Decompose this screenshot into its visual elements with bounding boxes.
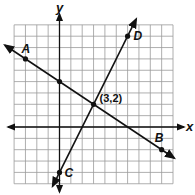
y-axis-label: y <box>55 0 64 15</box>
graph-svg: ABCD(3,2) x y <box>0 0 195 195</box>
plotted-points: ABCD(3,2) <box>20 29 164 180</box>
point-label: (3,2) <box>100 92 123 104</box>
point-label: A <box>20 42 30 56</box>
x-axis-label: x <box>185 119 194 134</box>
point-A <box>23 56 28 61</box>
coordinate-plane: ABCD(3,2) x y <box>0 0 195 195</box>
line-ab <box>5 45 174 158</box>
point-B <box>159 147 164 152</box>
point-label: C <box>65 166 74 180</box>
point-D <box>125 34 130 39</box>
point-y-intercept <box>57 79 62 84</box>
point-C <box>57 170 62 175</box>
point-label: B <box>155 131 164 145</box>
point-32 <box>91 102 96 107</box>
point-label: D <box>134 29 143 43</box>
axes <box>8 14 184 192</box>
